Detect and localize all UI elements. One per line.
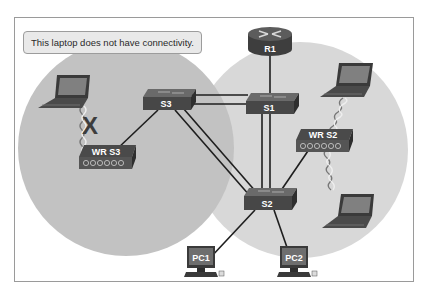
switch-s2[interactable]: S2: [244, 188, 297, 210]
wireless-router-wr-s2[interactable]: WR S2: [296, 129, 353, 152]
switch-label: S3: [160, 99, 171, 109]
pc-pc1[interactable]: PC1: [184, 246, 224, 277]
connectivity-callout: This laptop does not have connectivity.: [23, 31, 202, 54]
switch-label: S1: [263, 103, 274, 113]
svg-text:X: X: [82, 112, 98, 139]
broken-link-x-icon: X: [82, 112, 98, 139]
wireless-router-label: WR S2: [309, 130, 338, 140]
router-r1[interactable]: R1: [248, 27, 292, 56]
switch-s3[interactable]: S3: [143, 89, 196, 110]
wireless-router-label: WR S3: [92, 147, 121, 157]
router-icon: [248, 27, 292, 41]
pc-label: PC2: [285, 253, 303, 263]
switch-s1[interactable]: S1: [246, 93, 299, 114]
wireless-router-wr-s3[interactable]: WR S3: [79, 145, 136, 169]
network-diagram: X R1 S3 S1: [0, 0, 430, 296]
router-label: R1: [264, 44, 276, 54]
pc-label: PC1: [192, 253, 210, 263]
switch-label: S2: [261, 199, 272, 209]
